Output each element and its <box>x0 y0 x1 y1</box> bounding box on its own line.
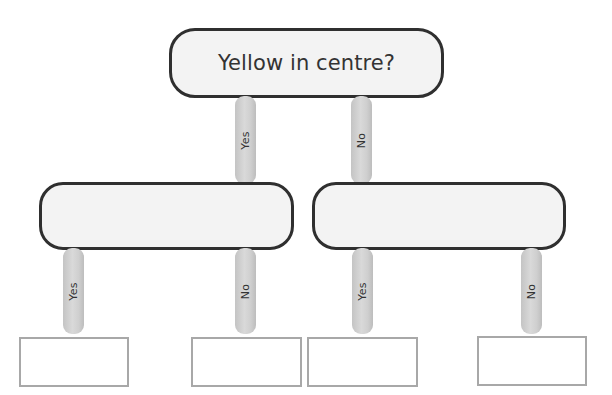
connector-label: No <box>355 132 368 148</box>
connector-label: No <box>239 283 252 299</box>
connector-left-no: No <box>235 248 256 334</box>
connector-label: Yes <box>239 131 252 150</box>
connector-left-yes: Yes <box>63 248 84 334</box>
connector-root-no: No <box>351 96 372 184</box>
connector-label: Yes <box>356 282 369 301</box>
root-question-text: Yellow in centre? <box>218 51 395 75</box>
leaf-box-2[interactable] <box>191 337 302 387</box>
leaf-box-1[interactable] <box>19 337 129 387</box>
connector-right-yes: Yes <box>352 248 373 334</box>
root-question-node: Yellow in centre? <box>169 28 444 98</box>
decision-node-right[interactable] <box>312 182 566 250</box>
connector-label: No <box>525 283 538 299</box>
connector-right-no: No <box>521 248 542 334</box>
connector-root-yes: Yes <box>235 96 256 184</box>
decision-node-left[interactable] <box>39 182 294 250</box>
leaf-box-3[interactable] <box>307 337 418 387</box>
connector-label: Yes <box>67 282 80 301</box>
leaf-box-4[interactable] <box>477 336 587 386</box>
